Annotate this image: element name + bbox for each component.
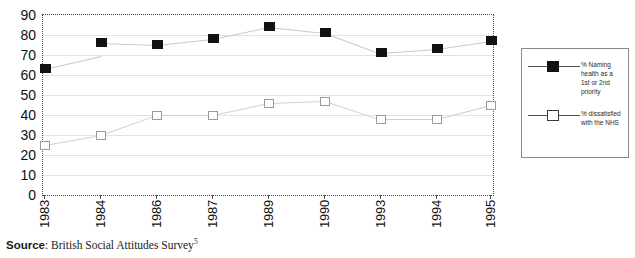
open-square-icon	[547, 110, 559, 121]
x-tick-1994: 1994	[430, 200, 443, 228]
x-tick-1990: 1990	[318, 200, 331, 228]
filled-square-icon	[547, 61, 559, 72]
x-tick-mark	[490, 195, 491, 199]
legend-label-health-line2: health as a	[581, 70, 627, 79]
legend-label-nhs-line2: with the NHS	[581, 119, 627, 128]
x-tick-mark	[44, 195, 45, 199]
x-tick-mark	[324, 195, 325, 199]
legend-label-health-line3: 1st or 2nd	[581, 79, 627, 88]
x-tick-mark	[100, 195, 101, 199]
x-tick-1989: 1989	[262, 200, 275, 228]
chart-figure: 90 80 70 60 50 40 30 20 10 0	[0, 0, 635, 258]
source-label: Source	[6, 239, 45, 251]
x-tick-1987: 1987	[206, 200, 219, 228]
legend-label-nhs-line1: % dissatisfied	[581, 110, 627, 119]
x-tick-1986: 1986	[150, 200, 163, 228]
chart-legend: % Naming health as a 1st or 2nd priority…	[521, 48, 629, 158]
source-note: Source: British Social Attitudes Survey5	[6, 235, 198, 252]
legend-label-health-line4: priority	[581, 88, 627, 97]
x-tick-1993: 1993	[374, 200, 387, 228]
x-tick-mark	[156, 195, 157, 199]
x-tick-1983: 1983	[38, 200, 51, 228]
legend-label-health-line1: % Naming	[581, 61, 627, 70]
source-footnote: 5	[194, 237, 198, 246]
legend-swatch-nhs	[528, 110, 580, 122]
source-text: British Social Attitudes Survey	[51, 239, 194, 251]
x-tick-mark	[436, 195, 437, 199]
x-tick-1984: 1984	[94, 200, 107, 228]
x-tick-mark	[212, 195, 213, 199]
x-tick-1995: 1995	[484, 200, 497, 228]
x-tick-mark	[268, 195, 269, 199]
x-tick-mark	[380, 195, 381, 199]
legend-swatch-health	[528, 61, 580, 73]
